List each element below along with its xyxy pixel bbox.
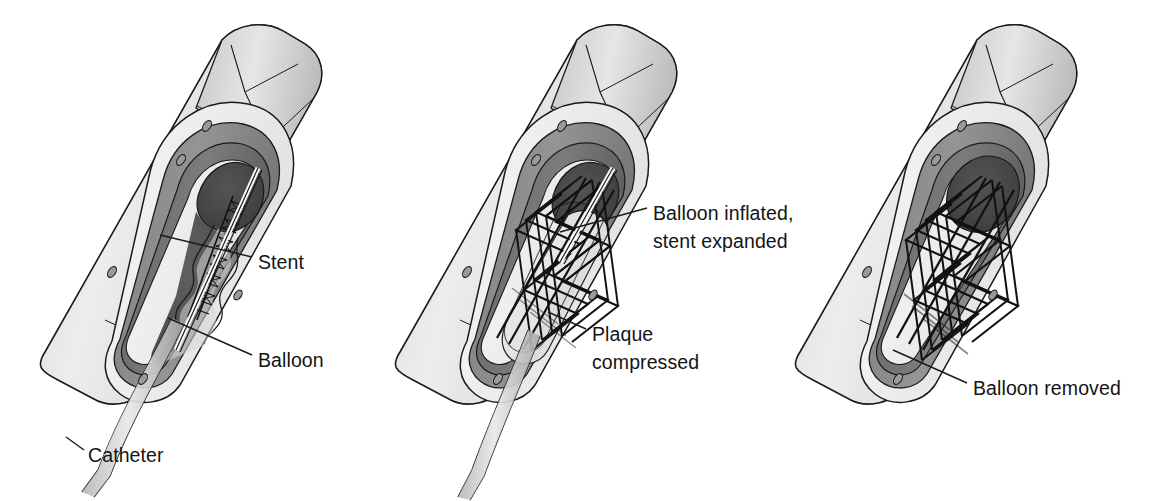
label-plaque-compressed-line2: compressed — [592, 351, 699, 373]
label-catheter: Catheter — [88, 444, 164, 466]
label-balloon-inflated-line1: Balloon inflated, — [653, 202, 793, 224]
label-plaque-compressed-line1: Plaque — [592, 323, 653, 345]
label-balloon-removed: Balloon removed — [973, 377, 1121, 399]
label-balloon: Balloon — [258, 349, 324, 371]
stent-placement-figure: Stent Balloon Catheter — [0, 0, 1154, 501]
label-stent: Stent — [258, 251, 305, 273]
label-balloon-inflated-line2: stent expanded — [653, 230, 788, 252]
